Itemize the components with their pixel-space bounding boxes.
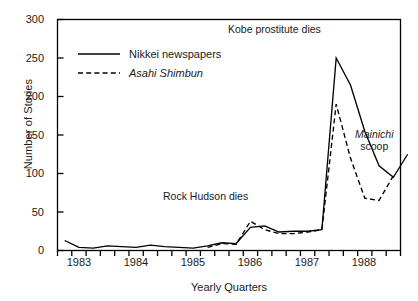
chart-legend: Nikkei newspapers Asahi Shimbun bbox=[78, 44, 221, 82]
x-tick-1984: 1984 bbox=[111, 256, 161, 268]
y-axis-title: Number of Stories bbox=[22, 49, 34, 199]
annotation-mainichi-scoop: Mainichi scoop bbox=[355, 128, 394, 152]
legend-label-asahi: Asahi Shimbun bbox=[129, 67, 203, 79]
legend-label-nikkei: Nikkei newspapers bbox=[129, 48, 221, 60]
x-tick-1983: 1983 bbox=[54, 256, 104, 268]
legend-item-asahi: Asahi Shimbun bbox=[78, 63, 221, 82]
legend-key-dashed-icon bbox=[78, 68, 120, 78]
annotation-mainichi-regular: scoop bbox=[355, 140, 394, 152]
legend-item-nikkei: Nikkei newspapers bbox=[78, 44, 221, 63]
x-tick-1985: 1985 bbox=[168, 256, 218, 268]
x-tick-1986: 1986 bbox=[225, 256, 275, 268]
annotation-mainichi-italic: Mainichi bbox=[355, 128, 394, 140]
annotation-kobe: Kobe prostitute dies bbox=[228, 23, 321, 35]
x-axis-title: Yearly Quarters bbox=[0, 281, 418, 293]
x-tick-1988: 1988 bbox=[339, 256, 389, 268]
chart-canvas: 300 250 200 150 100 50 0 1983 1984 1985 … bbox=[0, 0, 418, 301]
x-axis-title-text: Yearly Quarters bbox=[151, 281, 267, 293]
x-tick-1987: 1987 bbox=[282, 256, 332, 268]
annotation-rock-hudson: Rock Hudson dies bbox=[163, 190, 248, 202]
legend-key-solid-icon bbox=[78, 49, 120, 59]
